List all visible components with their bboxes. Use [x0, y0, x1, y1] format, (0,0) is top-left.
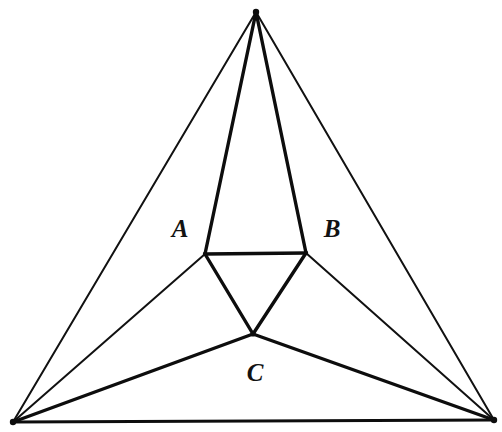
- region-label-c: C: [247, 359, 264, 386]
- inner-triangle-edges: [205, 253, 306, 334]
- edge-inner-right-to-inner-bottom: [253, 253, 306, 334]
- inner-left-vertex: [203, 252, 207, 256]
- edge-base-bottom: [13, 420, 494, 422]
- edge-apex-to-inner-left: [205, 12, 256, 254]
- edge-apex-to-bottom-left: [13, 12, 256, 422]
- edge-inner-left-to-inner-bottom: [205, 254, 253, 334]
- edge-bottom-right-to-inner-bottom: [253, 334, 494, 420]
- diagram-canvas: A B C: [0, 0, 502, 432]
- inner-right-vertex: [304, 251, 308, 255]
- edge-inner-left-to-inner-right: [205, 253, 306, 254]
- edge-apex-to-bottom-right: [256, 12, 494, 420]
- region-label-a: A: [170, 215, 189, 242]
- bottom-right-vertex: [491, 417, 497, 423]
- inner-bottom-vertex: [250, 331, 255, 336]
- edge-bottom-left-to-inner-left: [13, 254, 205, 422]
- triangle-subdivision-figure: A B C: [0, 0, 502, 432]
- edge-apex-to-inner-right: [256, 12, 306, 253]
- bottom-left-vertex: [10, 419, 16, 425]
- region-label-b: B: [323, 215, 341, 242]
- apex-vertex: [253, 9, 259, 15]
- edge-bottom-right-to-inner-right: [306, 253, 494, 420]
- region-labels: A B C: [170, 215, 341, 386]
- edge-bottom-left-to-inner-bottom: [13, 334, 253, 422]
